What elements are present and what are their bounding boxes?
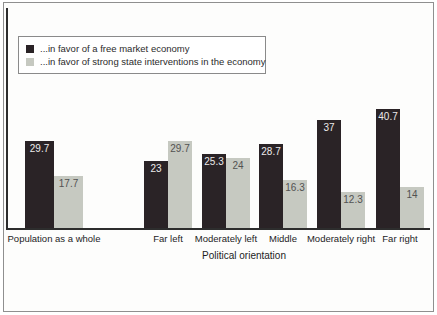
bar-free-market: 25.3 — [202, 154, 226, 228]
legend-item-state-interventions: ...in favor of strong state intervention… — [26, 55, 258, 68]
bar-state-interventions: 29.7 — [168, 141, 192, 228]
x-axis-line — [6, 228, 430, 230]
bar-free-market: 28.7 — [259, 144, 283, 228]
bar-state-interventions: 17.7 — [54, 176, 83, 228]
bar-value-label: 29.7 — [168, 143, 192, 154]
legend-item-free-market: ...in favor of a free market economy — [26, 42, 258, 55]
bar-value-label: 37 — [317, 122, 341, 133]
x-axis-title: Political orientation — [169, 250, 319, 261]
bar-free-market: 37 — [317, 120, 341, 228]
x-tick-label: Far right — [335, 233, 437, 244]
legend-swatch-dark-icon — [26, 45, 34, 53]
bar-free-market: 29.7 — [25, 141, 54, 228]
bar-free-market: 23 — [144, 161, 168, 228]
bar-value-label: 12.3 — [341, 194, 365, 205]
bar-state-interventions: 12.3 — [341, 192, 365, 228]
bar-value-label: 14 — [400, 189, 424, 200]
bar-state-interventions: 24 — [226, 158, 250, 228]
legend-label: ...in favor of strong state intervention… — [40, 56, 265, 67]
bar-value-label: 16.3 — [283, 182, 307, 193]
chart-screenshot: { "chart_data": { "type": "bar", "catego… — [0, 0, 437, 315]
bar-value-label: 29.7 — [25, 143, 54, 154]
bar-value-label: 28.7 — [259, 146, 283, 157]
x-tick-label: Population as a whole — [0, 233, 119, 244]
bar-value-label: 24 — [226, 160, 250, 171]
bar-state-interventions: 14 — [400, 187, 424, 228]
bar-value-label: 23 — [144, 163, 168, 174]
bar-value-label: 25.3 — [202, 156, 226, 167]
bar-free-market: 40.7 — [376, 109, 400, 228]
legend: ...in favor of a free market economy ...… — [18, 36, 266, 74]
y-axis-line — [6, 8, 8, 230]
bar-value-label: 17.7 — [54, 178, 83, 189]
bar-state-interventions: 16.3 — [283, 180, 307, 228]
bar-value-label: 40.7 — [376, 111, 400, 122]
legend-label: ...in favor of a free market economy — [40, 43, 189, 54]
legend-swatch-light-icon — [26, 58, 34, 66]
